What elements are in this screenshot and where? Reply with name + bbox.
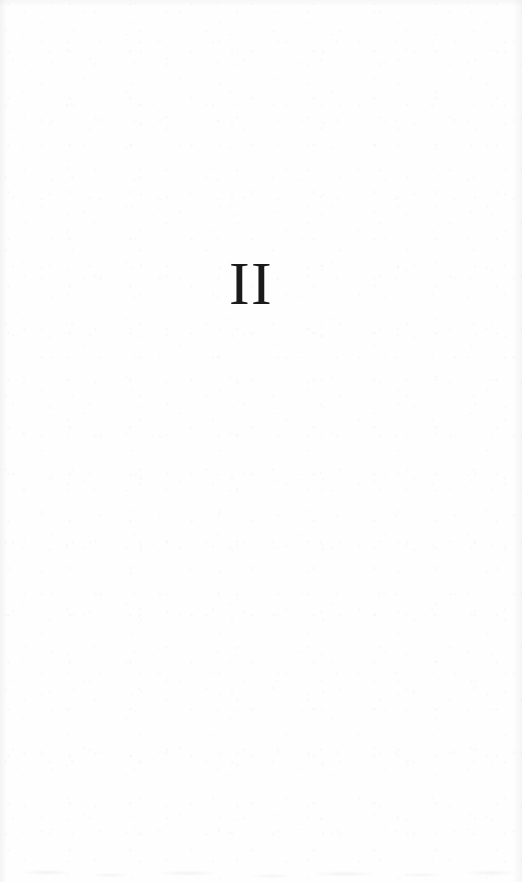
part-numeral-container: II [0, 0, 502, 882]
part-numeral: II [229, 252, 273, 314]
book-page: II [0, 0, 522, 882]
